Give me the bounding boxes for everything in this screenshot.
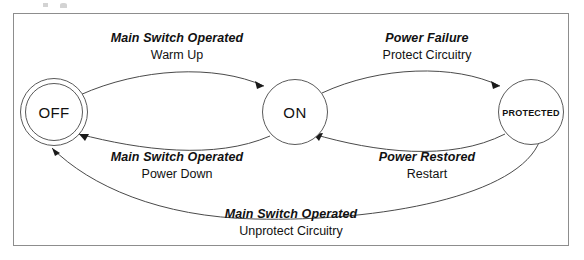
state-transition-diagram: OFF ON Protected Main Switch Operated Wa… bbox=[0, 0, 584, 260]
transition-label-protect-circuitry-action: Protect Circuitry bbox=[342, 48, 512, 63]
transition-label-power-down-event: Main Switch Operated bbox=[92, 150, 262, 165]
state-node-protected-label: Protected bbox=[502, 106, 559, 119]
state-node-protected[interactable]: Protected bbox=[498, 79, 564, 145]
transition-label-protect-circuitry-event: Power Failure bbox=[342, 31, 512, 46]
state-node-off-label: OFF bbox=[38, 105, 69, 120]
transition-label-power-down: Main Switch Operated Power Down bbox=[92, 150, 262, 182]
transition-label-protect-circuitry: Power Failure Protect Circuitry bbox=[342, 31, 512, 63]
state-node-off[interactable]: OFF bbox=[20, 78, 88, 146]
transition-power-down-arrowhead bbox=[79, 134, 89, 141]
state-node-on-label: ON bbox=[283, 105, 306, 120]
transition-protect-circuitry-path bbox=[322, 71, 500, 93]
transition-protect-circuitry bbox=[322, 71, 500, 93]
transition-label-unprotect-circuitry: Main Switch Operated Unprotect Circuitry bbox=[196, 207, 386, 239]
transition-label-unprotect-circuitry-event: Main Switch Operated bbox=[196, 207, 386, 222]
transition-label-warm-up-action: Warm Up bbox=[92, 48, 262, 63]
transition-label-power-down-action: Power Down bbox=[92, 167, 262, 182]
transition-restart bbox=[313, 133, 505, 151]
transition-warm-up-path bbox=[80, 72, 264, 95]
state-node-on[interactable]: ON bbox=[262, 79, 328, 145]
transition-label-warm-up-event: Main Switch Operated bbox=[92, 31, 262, 46]
transition-restart-path bbox=[313, 134, 505, 151]
transition-label-unprotect-circuitry-action: Unprotect Circuitry bbox=[196, 224, 386, 239]
transition-power-down bbox=[79, 134, 270, 150]
transition-warm-up bbox=[80, 72, 264, 95]
transition-power-down-path bbox=[79, 134, 270, 150]
transition-label-warm-up: Main Switch Operated Warm Up bbox=[92, 31, 262, 63]
transition-label-restart: Power Restored Restart bbox=[342, 150, 512, 182]
transition-label-restart-action: Restart bbox=[342, 167, 512, 182]
transition-label-restart-event: Power Restored bbox=[342, 150, 512, 165]
